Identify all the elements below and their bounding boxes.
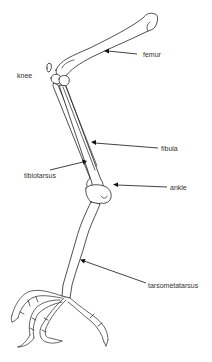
label-knee: knee [17,72,32,80]
tarsometatarsus-arrowhead-icon [80,259,86,264]
ankle-arrowhead-icon [113,183,118,188]
tibiotarsus-arrow [50,162,83,170]
tibiotarsus-bone [53,83,103,192]
fibula-arrowhead-icon [91,140,96,145]
label-tarsometatarsus: tarsometatarsus [148,282,198,290]
fibula-arrow [95,143,158,148]
ankle-arrow [117,185,167,187]
femur-bone [47,13,158,77]
femur-arrow [108,51,137,54]
tarsometatarsus-arrow [84,261,146,283]
leg-skeleton-drawing [0,0,212,362]
label-femur: femur [143,51,161,59]
bird-leg-diagram: femur knee fibula tibiotarsus ankle tars… [0,0,212,362]
label-tibiotarsus: tibiotarsus [24,172,56,180]
tarsometatarsus-bone [62,202,100,298]
foot-toes [11,290,108,347]
label-ankle: ankle [170,184,187,192]
label-fibula: fibula [161,145,178,153]
ankle-joint [86,185,111,204]
